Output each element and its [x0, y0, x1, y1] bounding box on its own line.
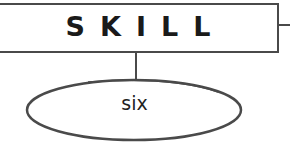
child-node-label: six [27, 92, 242, 114]
root-node-box: SKILL [0, 3, 279, 53]
root-node-label: SKILL [66, 11, 226, 42]
